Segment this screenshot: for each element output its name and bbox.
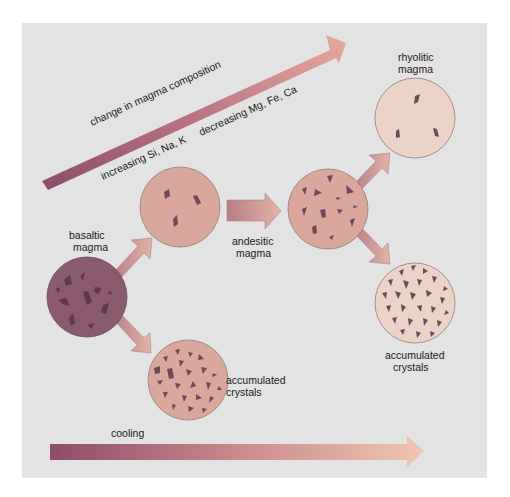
magma-differentiation-diagram: change in magma composition increasing S… <box>0 0 510 497</box>
basaltic-label-line1: basaltic <box>69 229 105 241</box>
andesitic-magma-circle <box>288 169 368 249</box>
accumulated-crystals-left-circle <box>148 340 228 420</box>
cooling-label: cooling <box>111 427 144 439</box>
rhyolitic-label-line1: rhyolitic <box>398 51 434 63</box>
accumulated-left-label-line1: accumulated <box>226 374 286 386</box>
intermediate-magma-circle <box>140 167 220 247</box>
accumulated-crystals-right-circle <box>375 263 455 343</box>
andesitic-label-line2: magma <box>236 247 271 259</box>
accumulated-left-label-line2: crystals <box>226 386 262 398</box>
basaltic-label-line2: magma <box>73 241 108 253</box>
rhyolitic-magma-circle <box>375 78 455 158</box>
accumulated-right-label-line2: crystals <box>393 361 429 373</box>
accumulated-right-label-line1: accumulated <box>385 349 445 361</box>
rhyolitic-label-line2: magma <box>398 63 433 75</box>
basaltic-magma-circle <box>47 257 127 337</box>
andesitic-label-line1: andesitic <box>232 235 273 247</box>
